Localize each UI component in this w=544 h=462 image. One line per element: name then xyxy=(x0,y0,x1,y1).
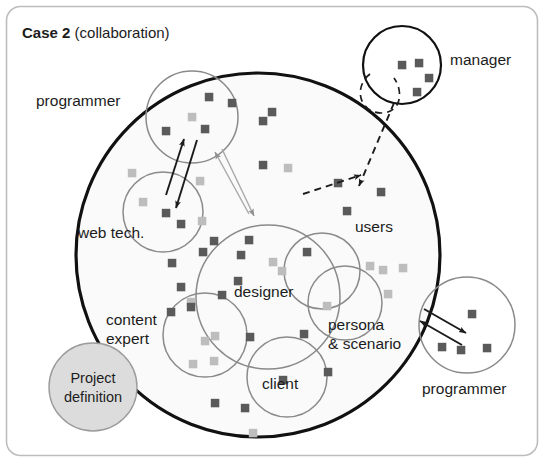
person-square xyxy=(324,368,333,377)
person-square xyxy=(177,283,186,292)
person-square xyxy=(323,302,332,311)
person-square xyxy=(187,303,196,312)
label-manager: manager xyxy=(450,51,511,68)
person-square xyxy=(413,88,422,97)
person-square xyxy=(167,308,176,317)
person-square xyxy=(366,262,375,271)
person-square xyxy=(210,237,219,246)
person-square xyxy=(177,220,186,229)
person-square xyxy=(259,161,268,170)
person-square xyxy=(425,74,434,83)
label-designer: designer xyxy=(234,283,293,300)
person-square xyxy=(268,108,277,117)
person-square xyxy=(205,93,214,102)
person-square xyxy=(438,343,447,352)
label-programmer-bottom: programmer xyxy=(422,380,506,397)
person-square xyxy=(384,290,393,299)
person-square xyxy=(198,217,207,226)
person-square xyxy=(241,404,250,413)
person-square xyxy=(246,333,255,342)
person-square xyxy=(343,207,352,216)
person-square xyxy=(162,209,171,218)
person-square xyxy=(162,127,171,136)
person-square xyxy=(218,291,227,300)
person-square xyxy=(468,310,477,319)
person-square xyxy=(168,259,177,268)
person-square xyxy=(201,125,210,134)
label-programmer-top: programmer xyxy=(36,92,120,109)
project-definition-circle[interactable] xyxy=(49,343,137,431)
person-square xyxy=(303,248,312,256)
diagram-canvas: Case 2 (collaboration) programmerweb tec… xyxy=(0,0,544,462)
person-square xyxy=(457,346,466,355)
person-square xyxy=(237,251,246,259)
title-case-label: Case 2 xyxy=(22,24,70,41)
title-qualifier-label: (collaboration) xyxy=(70,24,169,41)
label-web-tech: web tech. xyxy=(77,224,144,241)
person-square xyxy=(259,117,268,126)
person-square xyxy=(398,61,407,70)
person-square xyxy=(211,332,220,341)
person-square xyxy=(269,258,278,267)
person-square xyxy=(228,99,237,108)
diagram-title: Case 2 (collaboration) xyxy=(22,24,170,41)
person-square xyxy=(379,266,388,275)
person-square xyxy=(196,177,205,186)
person-square xyxy=(300,330,309,339)
person-square xyxy=(211,399,220,408)
person-square xyxy=(189,360,198,369)
label-client: client xyxy=(262,375,299,392)
person-square xyxy=(483,344,492,353)
person-square xyxy=(201,337,210,346)
person-square xyxy=(377,188,386,197)
person-square xyxy=(278,267,287,276)
person-square xyxy=(128,169,137,178)
person-square xyxy=(245,236,254,245)
person-square xyxy=(210,357,219,366)
person-square xyxy=(399,264,408,273)
person-square xyxy=(188,113,197,122)
person-square xyxy=(415,59,424,68)
person-square xyxy=(199,248,208,256)
person-square xyxy=(284,164,293,173)
person-square xyxy=(249,429,257,438)
label-users: users xyxy=(355,218,393,235)
case2-collaboration-diagram: Case 2 (collaboration) programmerweb tec… xyxy=(0,0,544,462)
person-square xyxy=(139,198,148,207)
